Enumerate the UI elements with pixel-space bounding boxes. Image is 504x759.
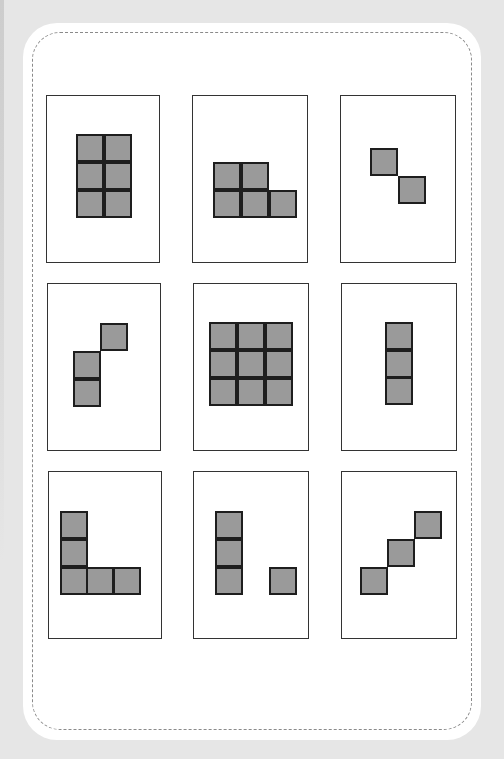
card-column-and-dot[interactable] [193, 471, 309, 639]
grid-cell [385, 377, 413, 405]
grid-cell [209, 378, 237, 406]
grid-cell [213, 162, 241, 190]
grid-cell [398, 176, 426, 204]
left-edge-strip [0, 0, 4, 560]
grid-cell [385, 350, 413, 378]
grid-cell [269, 190, 297, 218]
grid-cell [265, 350, 293, 378]
grid-cell [385, 322, 413, 350]
grid-cell [370, 148, 398, 176]
grid-cell [213, 190, 241, 218]
grid-cell [104, 190, 132, 218]
grid-cell [76, 190, 104, 218]
grid-cell [215, 567, 243, 595]
grid-cell [60, 539, 88, 567]
grid-cell [60, 567, 88, 595]
grid-cell [73, 379, 101, 407]
grid-cell [209, 322, 237, 350]
grid-cell [414, 511, 442, 539]
grid-cell [237, 350, 265, 378]
grid-cell [73, 351, 101, 379]
grid-cell [237, 378, 265, 406]
grid-cell [100, 323, 128, 351]
grid-cell [360, 567, 388, 595]
grid-cell [76, 134, 104, 162]
grid-cell [76, 162, 104, 190]
grid-cell [209, 350, 237, 378]
grid-cell [104, 134, 132, 162]
grid-cell [265, 378, 293, 406]
grid-cell [241, 190, 269, 218]
grid-cell [237, 322, 265, 350]
grid-cell [104, 162, 132, 190]
grid-cell [269, 567, 297, 595]
card-three-cell-s[interactable] [47, 283, 161, 451]
grid-cell [265, 322, 293, 350]
grid-cell [215, 511, 243, 539]
grid-cell [60, 511, 88, 539]
grid-cell [86, 567, 114, 595]
grid-cell [241, 162, 269, 190]
grid-cell [215, 539, 243, 567]
grid-cell [113, 567, 141, 595]
grid-cell [387, 539, 415, 567]
